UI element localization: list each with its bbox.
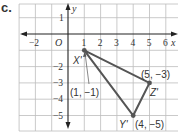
y-tick: −4	[53, 94, 63, 104]
x-axis	[20, 32, 178, 37]
x-tick: −2	[29, 38, 39, 48]
y-axis-label: y	[71, 3, 77, 14]
label-x-prime: X'	[72, 55, 83, 66]
leader-line	[85, 53, 89, 84]
origin-label: O	[55, 37, 62, 48]
coordinate-graph: y x O −2 1 2 3 4 5 6 1 −2 −3 −4 −5 X' (1…	[0, 0, 178, 135]
x-tick: 2	[98, 38, 103, 48]
grid	[19, 4, 178, 131]
x-tick: 4	[130, 38, 135, 48]
label-z-prime: Z'	[149, 87, 159, 98]
vertex-x-prime	[82, 48, 87, 53]
x-axis-label: x	[170, 37, 176, 48]
label-y-prime: Y'	[119, 119, 129, 130]
y-tick: −2	[53, 62, 63, 72]
y-tick: 1	[59, 13, 64, 23]
vertex-z-prime	[147, 81, 152, 86]
y-tick: −3	[53, 78, 63, 88]
x-tick: 6	[163, 38, 168, 48]
y-axis	[66, 3, 71, 129]
y-tick: −5	[53, 111, 63, 121]
vertex-y-prime	[131, 113, 136, 118]
coord-y-prime: (4, −5)	[135, 119, 164, 130]
x-tick: 3	[114, 38, 119, 48]
x-tick-labels: −2 1 2 3 4 5 6	[29, 38, 168, 48]
x-tick: 1	[82, 38, 87, 48]
coord-x-prime: (1, −1)	[70, 87, 99, 98]
coord-z-prime: (5, −3)	[141, 69, 170, 80]
x-tick: 5	[147, 38, 152, 48]
y-tick-labels: 1 −2 −3 −4 −5	[53, 13, 64, 121]
